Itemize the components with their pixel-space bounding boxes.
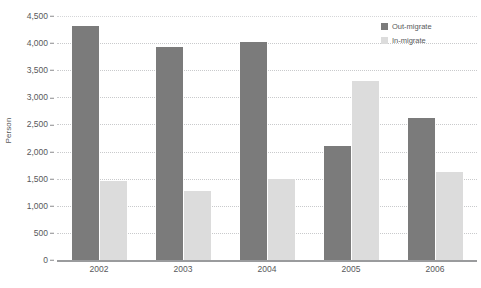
chart-legend: Out-migrateIn-migrate [381, 22, 432, 45]
legend-label: Out-migrate [392, 22, 432, 31]
bar-group [57, 16, 141, 260]
y-axis-tick-text: 1,500 [27, 173, 48, 183]
y-axis-tick-text: 3,500 [27, 65, 48, 75]
migration-bar-chart: Person 05001,0001,5002,0002,5003,0003,50… [0, 0, 481, 288]
y-axis-tick-label: 500 [0, 229, 54, 238]
bar[interactable] [268, 179, 295, 260]
y-axis-tick-label: 1,000 [0, 202, 54, 211]
y-axis-tick-label: 4,000 [0, 39, 54, 48]
x-axis-tick-label: 2003 [141, 264, 225, 274]
bar[interactable] [324, 146, 351, 260]
x-axis-tick-labels: 20022003200420052006 [57, 264, 477, 274]
bar[interactable] [72, 26, 99, 260]
x-axis-tick-label: 2005 [309, 264, 393, 274]
y-axis-tick-text: 4,000 [27, 38, 48, 48]
bar-group [393, 16, 477, 260]
x-axis-tick-label: 2006 [393, 264, 477, 274]
y-axis-tick-text: 3,000 [27, 92, 48, 102]
y-axis-tick-mark [50, 233, 54, 234]
bar[interactable] [352, 81, 379, 260]
x-axis-line [57, 260, 477, 262]
bar-group [141, 16, 225, 260]
bar[interactable] [408, 118, 435, 260]
y-axis-tick-text: 2,000 [27, 146, 48, 156]
y-axis-tick-mark [50, 97, 54, 98]
bars-layer [57, 16, 477, 260]
y-axis-tick-label: 1,500 [0, 174, 54, 183]
y-axis-tick-text: 4,500 [27, 11, 48, 21]
bar-group [225, 16, 309, 260]
bar[interactable] [100, 181, 127, 260]
x-axis-tick-label: 2002 [57, 264, 141, 274]
legend-label: In-migrate [392, 36, 426, 45]
y-axis-tick-label: 2,000 [0, 147, 54, 156]
y-axis-tick-label: 3,500 [0, 66, 54, 75]
y-axis-tick-text: 0 [43, 255, 48, 265]
legend-item[interactable]: In-migrate [381, 36, 432, 45]
y-axis-tick-mark [50, 70, 54, 71]
y-axis-tick-mark [50, 179, 54, 180]
y-axis-tick-text: 1,000 [27, 201, 48, 211]
legend-swatch-icon [381, 23, 388, 30]
bar[interactable] [436, 172, 463, 260]
y-axis-tick-mark [50, 260, 54, 261]
y-axis-tick-label: 2,500 [0, 120, 54, 129]
bar[interactable] [240, 42, 267, 260]
legend-item[interactable]: Out-migrate [381, 22, 432, 31]
y-axis-tick-label: 3,000 [0, 93, 54, 102]
bar-group [309, 16, 393, 260]
y-axis-tick-mark [50, 16, 54, 17]
y-axis-tick-mark [50, 152, 54, 153]
y-axis-tick-text: 500 [34, 228, 48, 238]
legend-swatch-icon [381, 37, 388, 44]
y-axis-tick-mark [50, 206, 54, 207]
y-axis-tick-text: 2,500 [27, 119, 48, 129]
y-axis-tick-label: 0 [0, 256, 54, 265]
y-axis-tick-label: 4,500 [0, 12, 54, 21]
bar[interactable] [184, 191, 211, 260]
x-axis-tick-label: 2004 [225, 264, 309, 274]
y-axis-tick-mark [50, 43, 54, 44]
plot-area [57, 16, 477, 260]
bar[interactable] [156, 47, 183, 260]
y-axis-tick-mark [50, 124, 54, 125]
